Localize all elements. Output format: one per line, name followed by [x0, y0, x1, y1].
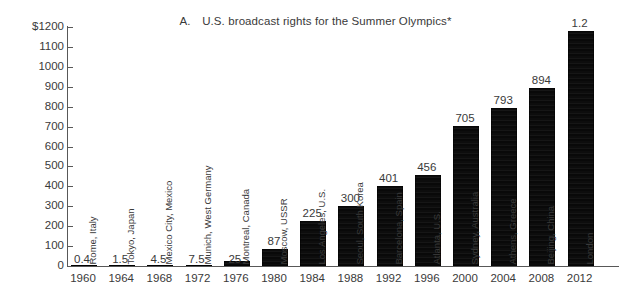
y-axis-tick-label: 300 — [0, 199, 64, 211]
bar-city-label: Sydney, Australia — [470, 191, 480, 264]
bar-group: 0.4Rome, Italy — [70, 27, 108, 266]
bar-city-label: Barcelona, Spain — [393, 192, 403, 264]
y-axis-tick-label: 100 — [0, 239, 64, 251]
bar-group: 225Los Angeles, U.S. — [299, 27, 337, 266]
y-axis-tick-label: $1200 — [0, 20, 64, 32]
bar-value-label: 793 — [485, 94, 521, 106]
x-axis-tick-label: 2012 — [558, 272, 602, 284]
plot-area: 0.4Rome, Italy1.5Tokyo, Japan4.5Mexico C… — [68, 27, 613, 266]
chart-title-text: U.S. broadcast rights for the Summer Oly… — [202, 15, 451, 27]
y-axis-tick-label: 600 — [0, 140, 64, 152]
bar-city-label: Tokyo, Japan — [126, 208, 136, 264]
bar-city-label: London — [584, 232, 594, 264]
y-axis-tick-label: 200 — [0, 219, 64, 231]
chart-title-prefix: A. — [179, 15, 190, 27]
y-axis-tick-label: 1000 — [0, 60, 64, 72]
x-axis-line — [67, 266, 619, 267]
bar-value-label: 705 — [447, 112, 483, 124]
bar-group: 401Barcelona, Spain — [376, 27, 414, 266]
bar-city-label: Montreal, Canada — [240, 188, 250, 264]
bar-value-label: 1.2 — [562, 17, 598, 29]
y-axis-tick-label: 800 — [0, 100, 64, 112]
bar-value-label: 401 — [371, 172, 407, 184]
bar-city-label: Rome, Italy — [88, 216, 98, 264]
chart-figure: A. U.S. broadcast rights for the Summer … — [0, 0, 631, 299]
bar-city-label: Beijing, China — [546, 205, 556, 264]
bar-group: 300Seoul, South Korea — [337, 27, 375, 266]
bar-city-label: Munich, West Germany — [202, 165, 212, 264]
y-axis-tick-label: 400 — [0, 179, 64, 191]
y-axis-tick — [68, 266, 73, 267]
bar[interactable] — [568, 31, 594, 266]
bar-city-label: Athens, Greece — [508, 198, 518, 264]
bar-group: 7.5Munich, West Germany — [185, 27, 223, 266]
bar-group: 25Montreal, Canada — [223, 27, 261, 266]
bar-city-label: Mexico City, Mexico — [164, 180, 174, 264]
y-axis-tick-label: 1100 — [0, 40, 64, 52]
bar-city-label: Moscow, USSR — [279, 198, 289, 264]
bar-group: 894Beijing, China — [528, 27, 566, 266]
y-axis-tick-label: 500 — [0, 159, 64, 171]
bar-city-label: Atlanta, U.S. — [431, 211, 441, 264]
bar-group: 456Atlanta, U.S. — [414, 27, 452, 266]
y-axis-tick-label: 700 — [0, 120, 64, 132]
y-axis-tick-label: 900 — [0, 80, 64, 92]
bar-group: 1.5Tokyo, Japan — [108, 27, 146, 266]
bar-city-label: Seoul, South Korea — [355, 182, 365, 264]
bar-group: 705Sydney, Australia — [452, 27, 490, 266]
chart-title: A. U.S. broadcast rights for the Summer … — [0, 15, 631, 27]
y-axis-tick-label: 0 — [0, 259, 64, 271]
bar-group: 87Moscow, USSR — [261, 27, 299, 266]
bar-city-label: Los Angeles, U.S. — [317, 188, 327, 264]
bar-group: 4.5Mexico City, Mexico — [146, 27, 184, 266]
bar-group: 1.2London — [567, 27, 605, 266]
bar-value-label: 456 — [409, 161, 445, 173]
bar-value-label: 894 — [523, 74, 559, 86]
bar-group: 793Athens, Greece — [490, 27, 528, 266]
